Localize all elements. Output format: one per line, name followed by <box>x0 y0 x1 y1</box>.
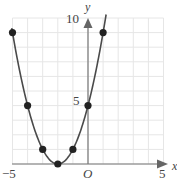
parabola-chart: −5 5 O 5 10 y x <box>0 0 177 181</box>
x-tick-max: 5 <box>159 166 166 181</box>
y-tick-5: 5 <box>73 93 80 108</box>
x-axis-label: x <box>171 159 177 173</box>
y-axis-label: y <box>84 0 91 14</box>
data-point <box>69 146 76 153</box>
data-point <box>54 160 61 167</box>
data-point <box>39 146 46 153</box>
y-tick-10: 10 <box>66 11 79 26</box>
data-point <box>100 29 107 36</box>
parabola-curve <box>12 15 106 165</box>
data-point <box>24 102 31 109</box>
origin-label: O <box>83 166 93 181</box>
axes <box>12 18 168 169</box>
y-axis-arrow-icon <box>84 18 93 28</box>
data-point <box>84 102 91 109</box>
x-tick-min: −5 <box>2 166 16 181</box>
data-point <box>9 29 16 36</box>
